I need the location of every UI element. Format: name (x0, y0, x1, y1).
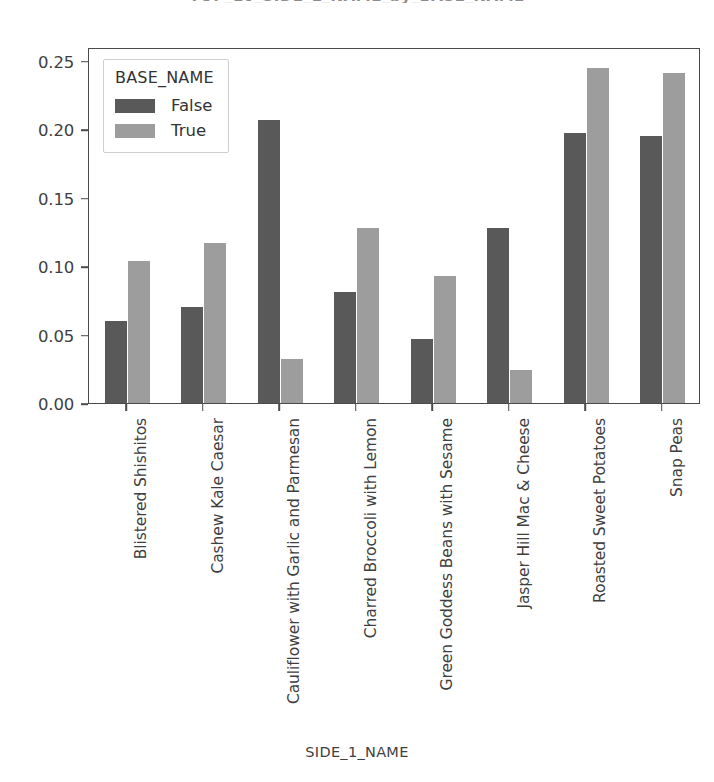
x-tick-mark (202, 404, 204, 411)
bar-false (258, 120, 280, 403)
y-tick-mark (81, 266, 88, 268)
chart-figure: TOP_10_SIDE_1_NAME_by_BASE_NAME BASE_NAM… (0, 0, 714, 782)
cropped-chart-title: TOP_10_SIDE_1_NAME_by_BASE_NAME (0, 0, 714, 3)
bar-false (181, 307, 203, 403)
y-axis-ticks: 0.000.050.100.150.200.25 (0, 0, 88, 782)
bar-true (587, 68, 609, 403)
chart-legend: BASE_NAME FalseTrue (103, 59, 229, 153)
y-tick-mark (81, 403, 88, 405)
bar-false (334, 292, 356, 403)
legend-label: False (171, 96, 212, 115)
y-tick-mark (81, 61, 88, 63)
x-tick-label: Roasted Sweet Potatoes (591, 418, 609, 603)
y-tick-label: 0.00 (38, 395, 74, 414)
y-tick-label: 0.20 (38, 121, 74, 140)
x-tick-mark (431, 404, 433, 411)
bar-true (357, 228, 379, 403)
bar-true (128, 261, 150, 403)
y-tick-mark (81, 335, 88, 337)
x-tick-label: Charred Broccoli with Lemon (362, 418, 380, 638)
x-tick-mark (125, 404, 127, 411)
bar-false (105, 321, 127, 403)
x-tick-label: Cashew Kale Caesar (209, 418, 227, 574)
bar-false (411, 339, 433, 403)
y-tick-label: 0.15 (38, 189, 74, 208)
bar-true (663, 73, 685, 403)
y-tick-mark (81, 198, 88, 200)
x-tick-label: Blistered Shishitos (132, 418, 150, 559)
y-tick-mark (81, 129, 88, 131)
bar-false (640, 136, 662, 403)
y-tick-label: 0.05 (38, 326, 74, 345)
x-tick-mark (508, 404, 510, 411)
plot-area: BASE_NAME FalseTrue (88, 48, 700, 404)
x-tick-mark (584, 404, 586, 411)
bar-true (434, 276, 456, 403)
x-axis-title: SIDE_1_NAME (0, 744, 714, 760)
x-tick-mark (661, 404, 663, 411)
legend-entry: True (115, 118, 214, 143)
bar-true (510, 370, 532, 403)
x-tick-label: Green Goddess Beans with Sesame (438, 418, 456, 690)
bar-true (281, 359, 303, 403)
bar-true (204, 243, 226, 403)
x-tick-label: Jasper Hill Mac & Cheese (515, 418, 533, 609)
x-tick-mark (355, 404, 357, 411)
x-tick-mark (278, 404, 280, 411)
bar-false (487, 228, 509, 403)
legend-rows: FalseTrue (115, 93, 214, 143)
legend-swatch-icon (115, 99, 155, 113)
legend-label: True (171, 121, 206, 140)
legend-title: BASE_NAME (115, 68, 214, 87)
x-tick-label: Snap Peas (668, 418, 686, 497)
y-tick-label: 0.25 (38, 52, 74, 71)
y-tick-label: 0.10 (38, 258, 74, 277)
legend-swatch-icon (115, 124, 155, 138)
x-tick-label: Cauliflower with Garlic and Parmesan (285, 418, 303, 704)
bar-false (564, 133, 586, 403)
legend-entry: False (115, 93, 214, 118)
